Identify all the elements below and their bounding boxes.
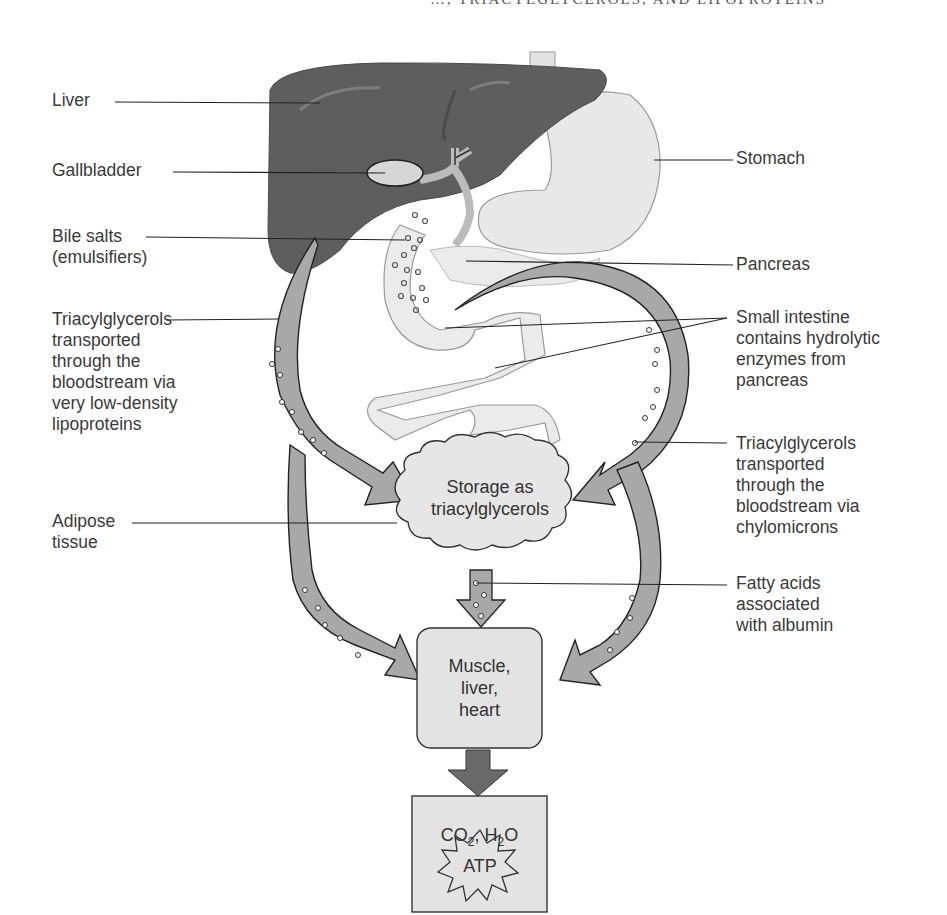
label-bile-salts: Bile salts (emulsifiers)	[52, 226, 147, 268]
tissues-text: Muscle, liver, heart	[417, 655, 542, 721]
label-gallbladder: Gallbladder	[52, 160, 142, 181]
atp-text: ATP	[450, 855, 510, 877]
products-text: CO2, H2O	[412, 802, 547, 853]
label-pancreas: Pancreas	[736, 254, 810, 275]
label-fatty-acids: Fatty acids associated with albumin	[736, 573, 833, 636]
oxidation-arrow	[448, 750, 508, 796]
label-liver: Liver	[52, 90, 90, 111]
label-stomach: Stomach	[736, 148, 805, 169]
label-tag-chylomicrons: Triacylglycerols transported through the…	[736, 433, 860, 538]
label-tag-vldl: Triacylglycerols transported through the…	[52, 309, 177, 435]
label-small-intestine: Small intestine contains hydrolytic enzy…	[736, 307, 880, 391]
label-adipose-tissue: Adipose tissue	[52, 511, 115, 553]
storage-text: Storage as triacylglycerols	[405, 476, 575, 520]
